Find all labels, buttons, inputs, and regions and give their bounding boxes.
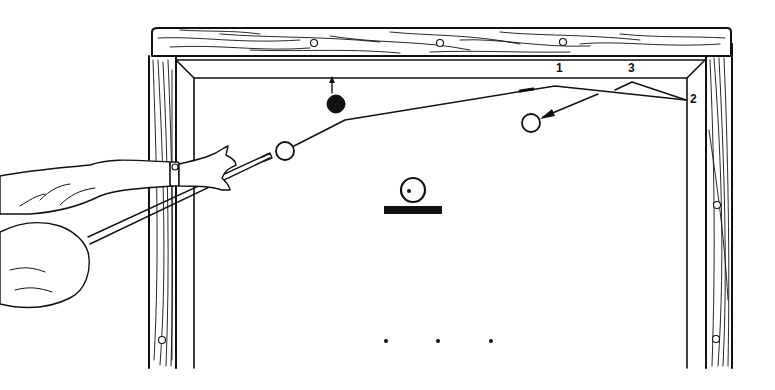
cue-ball <box>276 142 294 160</box>
left-rail <box>149 56 176 368</box>
shot-path <box>294 82 686 146</box>
rail-label-1: 1 <box>556 62 563 74</box>
rail-label-3: 3 <box>628 62 635 74</box>
arrow-head-icon <box>540 109 555 119</box>
object-ball <box>522 114 540 132</box>
table-illustration <box>0 0 775 390</box>
billiards-diagram: 1 3 2 <box>0 0 775 390</box>
rail-diamonds <box>159 39 721 344</box>
spot-ball-icon <box>384 178 442 214</box>
black-object-ball <box>327 95 345 113</box>
player-arms <box>0 146 236 307</box>
foot-spots <box>384 339 493 343</box>
rail-label-2: 2 <box>690 93 697 105</box>
